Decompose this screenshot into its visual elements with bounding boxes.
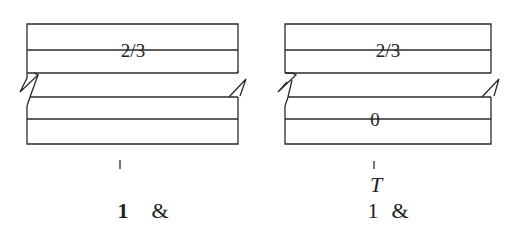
right-marker-label: T [370, 174, 382, 196]
right-lower-cell-value: 0 [370, 110, 380, 129]
left-top-cell-value: 2/3 [121, 41, 145, 60]
right-stack-lower [285, 97, 491, 144]
left-break-mark-right [229, 71, 246, 97]
right-break-mark-right [482, 79, 499, 97]
right-caption-symbol: & [391, 200, 408, 222]
left-break-mark-left [20, 73, 38, 97]
right-top-cell-value: 2/3 [376, 41, 400, 60]
right-break-mark-left [278, 73, 296, 97]
left-caption-symbol: & [151, 200, 168, 222]
diagram-canvas [0, 0, 518, 234]
left-stack-lower [27, 97, 238, 144]
right-caption-number: 1 [368, 200, 379, 222]
left-caption-number: 1 [118, 200, 129, 222]
